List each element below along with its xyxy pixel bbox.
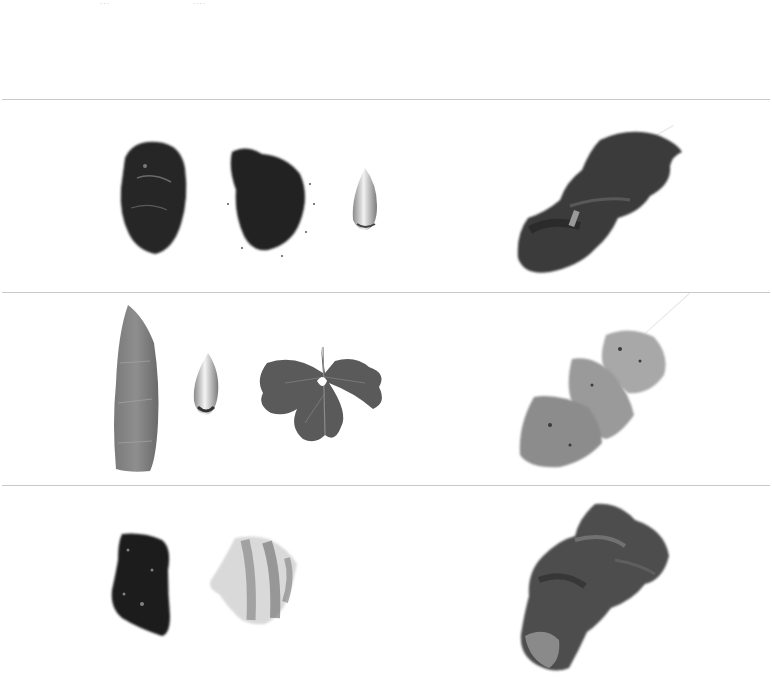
grilled-mixed-meat-pieces-image [515,500,675,676]
top-text-fragment-2: ···· [193,0,206,7]
top-text-fragment-1: ··· [100,0,110,7]
row-1 [0,100,772,292]
row-3 [0,486,772,679]
grilled-dark-meat-skewer-image [510,126,690,282]
grilled-chicken-skewer-image [510,315,680,475]
liver-chunk-image [108,530,176,638]
garlic-clove-image [349,166,381,234]
garlic-clove-image-2 [190,351,222,417]
parsley-leaf-image [255,343,387,447]
chicken-strip-image [110,303,166,475]
ground-spice-pile-image [222,144,322,259]
dark-meat-chunk-image [115,138,195,258]
row-2 [0,293,772,485]
top-strip: ··· ···· [0,0,772,98]
pork-belly-slice-image [205,532,301,630]
